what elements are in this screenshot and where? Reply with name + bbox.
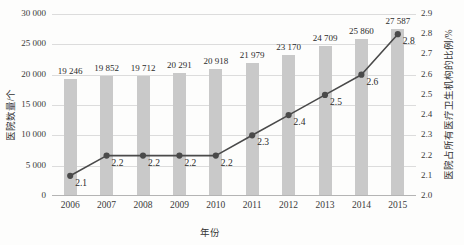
bar-value-label: 23 170	[266, 42, 312, 52]
y-axis-right-tick-label: 2.6	[421, 69, 445, 79]
y-axis-right-tick-label: 2.3	[421, 129, 445, 139]
line-marker	[286, 112, 292, 118]
y-axis-right-tick-label: 2.4	[421, 109, 445, 119]
bar-value-label: 27 587	[375, 16, 421, 26]
y-axis-right-tick-label: 2.7	[421, 48, 445, 58]
line-value-label: 2.5	[330, 97, 354, 107]
line-value-label: 2.6	[366, 77, 390, 87]
plot-area: 2.12.22.22.22.22.32.42.52.62.8	[52, 14, 416, 196]
y-axis-left-tick-label: 15 000	[2, 99, 46, 109]
line-marker	[176, 153, 182, 159]
y-axis-left-tick-label: 10 000	[2, 129, 46, 139]
y-axis-right-tick-label: 2.2	[421, 150, 445, 160]
line-value-label: 2.8	[403, 36, 427, 46]
y-axis-left-tick-label: 20 000	[2, 69, 46, 79]
x-axis-tick-label: 2015	[378, 200, 418, 210]
x-axis-tick-label: 2014	[341, 200, 381, 210]
line-marker	[395, 31, 401, 37]
x-axis-tick-label: 2006	[50, 200, 90, 210]
line-value-label: 2.2	[148, 158, 172, 168]
line-marker	[213, 153, 219, 159]
y-axis-left-title: 医院数量/个	[3, 79, 17, 151]
y-axis-left-tick-label: 25 000	[2, 38, 46, 48]
y-axis-left-tick-label: 0	[2, 190, 46, 200]
line-value-label: 2.2	[221, 158, 245, 168]
bar-value-label: 25 860	[338, 26, 384, 36]
line-marker	[140, 153, 146, 159]
y-axis-left-tick-label: 5 000	[2, 160, 46, 170]
x-axis-tick-label: 2008	[123, 200, 163, 210]
line-marker	[322, 92, 328, 98]
y-axis-right-tick-label: 2.0	[421, 190, 445, 200]
y-axis-right-tick-label: 2.1	[421, 170, 445, 180]
y-axis-right-tick-label: 2.5	[421, 89, 445, 99]
y-axis-left-tick-label: 30 000	[2, 8, 46, 18]
line-value-label: 2.2	[184, 158, 208, 168]
line-series	[52, 14, 416, 196]
line-value-label: 2.4	[294, 117, 318, 127]
x-axis-tick-label: 2007	[87, 200, 127, 210]
line-value-label: 2.1	[75, 178, 99, 188]
x-axis-line	[52, 195, 416, 196]
x-axis-tick-label: 2010	[196, 200, 236, 210]
line-value-label: 2.3	[257, 137, 281, 147]
x-axis-title: 年份	[0, 225, 420, 239]
x-axis-tick-label: 2009	[159, 200, 199, 210]
line-value-label: 2.2	[112, 158, 136, 168]
chart-container: 医院数量/个 医院占所有医疗卫生机构的比例/% 年份 05 00010 0001…	[0, 0, 464, 245]
y-axis-right-tick-label: 2.9	[421, 8, 445, 18]
x-axis-tick-label: 2012	[269, 200, 309, 210]
line-marker	[67, 173, 73, 179]
x-axis-tick-label: 2011	[232, 200, 272, 210]
line-marker	[249, 132, 255, 138]
x-axis-tick-label: 2013	[305, 200, 345, 210]
line-marker	[358, 72, 364, 78]
line-marker	[104, 153, 110, 159]
